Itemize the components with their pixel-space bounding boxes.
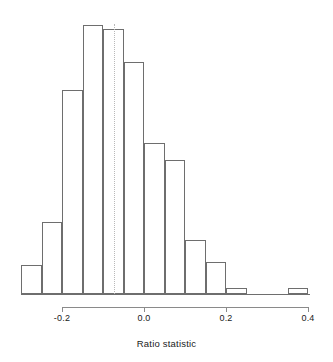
- x-axis-line: [62, 307, 308, 308]
- histogram-bar: [185, 240, 206, 294]
- histogram-bar: [83, 25, 104, 294]
- histogram-bar: [144, 143, 165, 294]
- histogram-bar: [21, 265, 42, 294]
- reference-dotted-line: [114, 24, 116, 294]
- plot-baseline: [21, 294, 310, 295]
- x-axis-tick: [226, 307, 227, 312]
- x-axis-tick: [62, 307, 63, 312]
- histogram-bar: [165, 160, 186, 295]
- x-axis-tick: [144, 307, 145, 312]
- x-axis-tick-label: 0.0: [137, 313, 150, 323]
- histogram-bar: [124, 62, 145, 294]
- histogram-bar: [62, 90, 83, 294]
- x-axis-tick-label: -0.2: [54, 313, 70, 323]
- histogram-bar: [42, 222, 63, 294]
- x-axis-label: Ratio statistic: [0, 338, 333, 349]
- histogram-plot: -0.20.00.20.4 Ratio statistic: [0, 0, 333, 362]
- histogram-bar: [206, 262, 227, 294]
- x-axis-tick-label: 0.2: [219, 313, 232, 323]
- x-axis-tick-label: 0.4: [301, 313, 314, 323]
- x-axis-tick: [308, 307, 309, 312]
